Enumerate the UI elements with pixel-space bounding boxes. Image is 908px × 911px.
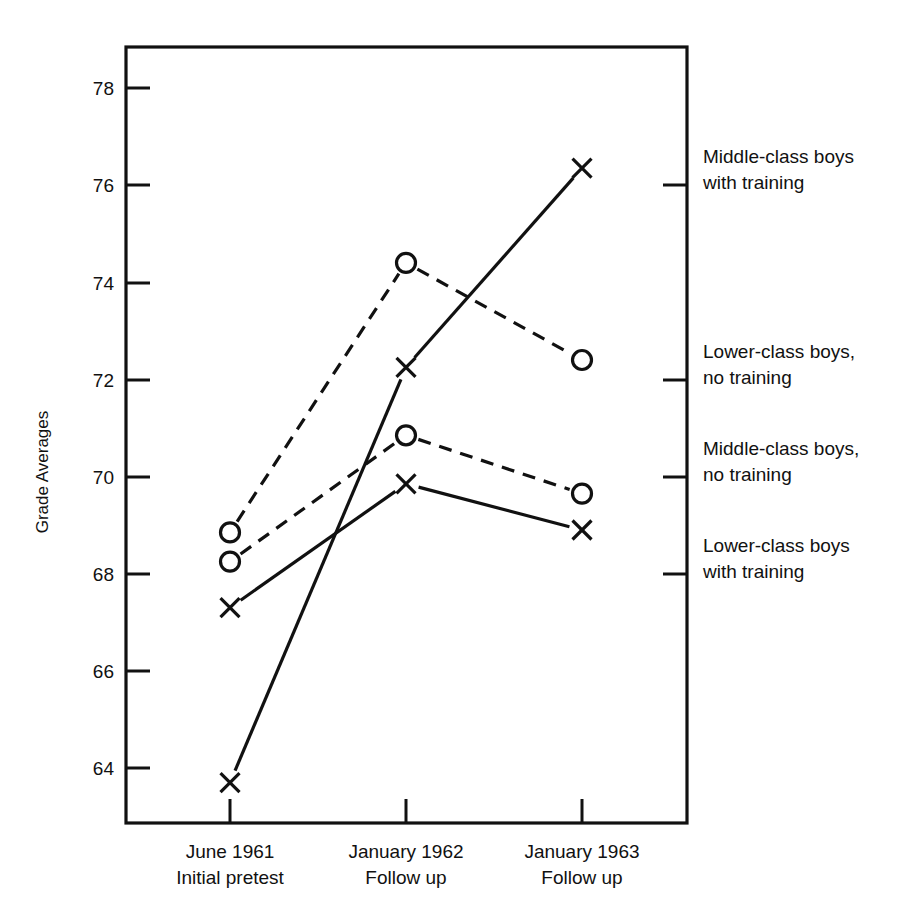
chart-figure: Grade Averages 78 76 74 72 70 68 66 64: [0, 0, 908, 911]
legend-entry-2-line2: no training: [703, 367, 792, 388]
series-3-marker-3: [573, 484, 592, 503]
series-2-marker-1: [221, 523, 240, 542]
series-3-marker-1: [221, 552, 240, 571]
legend-entry-2-line1: Lower-class boys,: [703, 341, 855, 362]
legend-entry-1-line2: with training: [702, 172, 804, 193]
x-label-2-line2: Follow up: [365, 867, 446, 888]
y-axis-title: Grade Averages: [33, 411, 52, 534]
y-tick-label-78: 78: [93, 78, 114, 99]
series-2-marker-3: [573, 351, 592, 370]
legend-entry-1-line1: Middle-class boys: [703, 146, 854, 167]
x-label-3-line2: Follow up: [541, 867, 622, 888]
x-label-1-line2: Initial pretest: [176, 867, 284, 888]
legend-entry-3-line1: Middle-class boys,: [703, 438, 859, 459]
y-tick-label-74: 74: [93, 273, 115, 294]
y-tick-label-72: 72: [93, 370, 114, 391]
y-tick-label-68: 68: [93, 564, 114, 585]
legend-entry-3-line2: no training: [703, 464, 792, 485]
series-3-marker-2: [397, 426, 416, 445]
y-tick-label-64: 64: [93, 758, 115, 779]
grade-averages-line-chart: Grade Averages 78 76 74 72 70 68 66 64: [0, 0, 908, 911]
legend-entry-4-line1: Lower-class boys: [703, 535, 850, 556]
x-label-1-line1: June 1961: [186, 841, 275, 862]
y-tick-label-76: 76: [93, 175, 114, 196]
series-2-marker-2: [397, 253, 416, 272]
y-tick-label-66: 66: [93, 661, 114, 682]
x-label-3-line1: January 1963: [524, 841, 639, 862]
legend-entry-4-line2: with training: [702, 561, 804, 582]
x-label-2-line1: January 1962: [348, 841, 463, 862]
y-tick-label-70: 70: [93, 467, 114, 488]
